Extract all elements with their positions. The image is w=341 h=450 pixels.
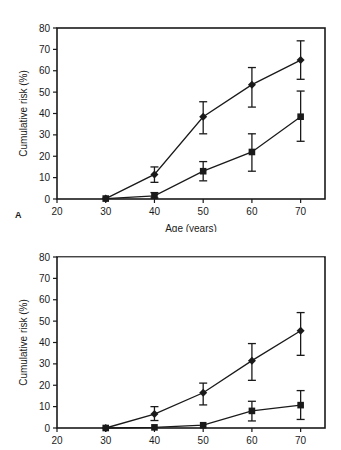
x-tick-label: 60 [246, 206, 258, 217]
panel-b-plot: 01020304050607080203040506070Cumulative … [0, 232, 341, 450]
panel-a-plot: 01020304050607080203040506070Cumulative … [0, 0, 341, 232]
data-point-marker [199, 389, 207, 397]
data-point-marker [200, 168, 207, 175]
y-tick-label: 50 [39, 316, 51, 327]
data-point-marker [151, 192, 158, 199]
data-point-marker [248, 81, 256, 89]
y-axis-title: Cumulative risk (%) [18, 299, 29, 386]
data-point-marker [102, 195, 109, 202]
data-point-marker [297, 402, 304, 409]
x-tick-label: 60 [246, 435, 258, 446]
panel-a: 01020304050607080203040506070Cumulative … [0, 0, 341, 232]
figure-two-panel-cumulative-risk: 01020304050607080203040506070Cumulative … [0, 0, 341, 450]
series-diamond [102, 313, 305, 432]
panel-a-letter: A [15, 210, 22, 220]
x-tick-label: 70 [295, 206, 307, 217]
x-tick-label: 20 [51, 206, 63, 217]
data-point-marker [249, 149, 256, 156]
x-tick-label: 20 [51, 435, 63, 446]
x-axis-title: Age (years) [165, 223, 217, 232]
y-tick-label: 60 [39, 294, 51, 305]
x-tick-label: 30 [100, 435, 112, 446]
data-point-marker [297, 56, 305, 64]
x-tick-label: 30 [100, 206, 112, 217]
x-tick-label: 50 [198, 435, 210, 446]
y-tick-label: 30 [39, 129, 51, 140]
y-tick-label: 70 [39, 273, 51, 284]
y-tick-label: 40 [39, 337, 51, 348]
y-tick-label: 30 [39, 358, 51, 369]
y-tick-label: 10 [39, 172, 51, 183]
y-tick-label: 20 [39, 151, 51, 162]
panel-b: 01020304050607080203040506070Cumulative … [0, 232, 341, 450]
x-tick-label: 40 [149, 435, 161, 446]
data-point-marker [150, 410, 158, 418]
data-point-marker [200, 422, 207, 429]
x-tick-label: 40 [149, 206, 161, 217]
y-tick-label: 0 [44, 194, 50, 205]
y-tick-label: 20 [39, 380, 51, 391]
data-point-marker [297, 327, 305, 335]
x-tick-label: 70 [295, 435, 307, 446]
y-tick-label: 50 [39, 87, 51, 98]
data-point-marker [248, 357, 256, 365]
x-tick-label: 50 [198, 206, 210, 217]
scan-artifact-band [58, 257, 324, 262]
y-tick-label: 60 [39, 65, 51, 76]
y-tick-label: 80 [39, 252, 51, 263]
y-tick-label: 80 [39, 23, 51, 34]
data-point-marker [297, 113, 304, 120]
y-tick-label: 0 [44, 423, 50, 434]
data-point-marker [249, 408, 256, 415]
y-tick-label: 70 [39, 44, 51, 55]
y-tick-label: 10 [39, 401, 51, 412]
data-point-marker [151, 424, 158, 431]
data-point-marker [102, 425, 109, 432]
y-axis-title: Cumulative risk (%) [18, 70, 29, 157]
y-tick-label: 40 [39, 108, 51, 119]
